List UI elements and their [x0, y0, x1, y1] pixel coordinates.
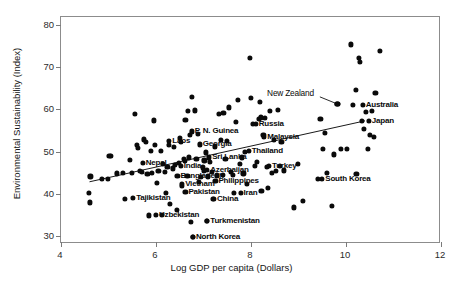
- data-point: [373, 90, 378, 95]
- data-point: [248, 95, 253, 100]
- data-point-labeled: [178, 164, 183, 169]
- data-point: [221, 111, 226, 116]
- y-tick-label: 30: [36, 229, 54, 240]
- data-point-labeled: [197, 142, 202, 147]
- data-point: [133, 112, 138, 117]
- data-point: [183, 117, 188, 122]
- data-point: [135, 146, 140, 151]
- data-point: [149, 149, 154, 154]
- x-tick-mark: [346, 242, 347, 247]
- point-annotation-label: Thailand: [252, 145, 283, 154]
- point-annotation-label: South Korea: [325, 173, 370, 182]
- point-annotation-label: Russia: [259, 119, 284, 128]
- point-annotation-label: Japan: [372, 115, 394, 124]
- point-annotation-label: Iran: [244, 188, 258, 197]
- data-point: [358, 59, 363, 64]
- y-tick-label: 60: [36, 103, 54, 114]
- data-point: [192, 108, 197, 113]
- point-annotation-label: Sri Lanka: [212, 152, 246, 161]
- data-point: [275, 107, 280, 112]
- data-point: [254, 159, 259, 164]
- data-point-labeled: [266, 163, 271, 168]
- data-point-labeled: [175, 173, 180, 178]
- data-point-labeled: [183, 189, 188, 194]
- trend-line: [61, 17, 441, 244]
- data-point-labeled: [153, 212, 158, 217]
- data-point-labeled: [366, 118, 371, 123]
- data-point: [186, 108, 191, 113]
- data-point-labeled: [131, 196, 136, 201]
- data-point: [331, 152, 336, 157]
- data-point: [105, 177, 110, 182]
- data-point-labeled: [335, 101, 340, 106]
- x-axis-title: Log GDP per capita (Dollars): [0, 262, 463, 273]
- y-tick-mark: [56, 152, 61, 153]
- data-point: [227, 105, 232, 110]
- data-point: [321, 146, 326, 151]
- data-point: [151, 118, 156, 123]
- data-point: [371, 135, 376, 140]
- data-point: [146, 213, 151, 218]
- data-point-labeled: [246, 148, 251, 153]
- data-point: [257, 99, 262, 104]
- data-point: [190, 94, 195, 99]
- x-tick-label: 8: [247, 249, 252, 260]
- point-annotation-label: Turkey: [272, 160, 296, 169]
- x-tick-label: 4: [57, 249, 62, 260]
- data-point: [350, 103, 355, 108]
- y-tick-label: 50: [36, 145, 54, 156]
- data-point: [189, 220, 194, 225]
- data-point-labeled: [320, 176, 325, 181]
- y-tick-mark: [56, 109, 61, 110]
- point-annotation-label: Nepal: [146, 157, 167, 166]
- point-annotation-label: Pakistan: [188, 186, 219, 195]
- data-point: [363, 109, 368, 114]
- data-point: [235, 97, 240, 102]
- point-annotation-label: Uzbekistan: [159, 209, 199, 218]
- data-point: [301, 199, 306, 204]
- data-point: [266, 185, 271, 190]
- data-point-labeled: [253, 122, 258, 127]
- data-point: [291, 205, 296, 210]
- data-point: [168, 201, 173, 206]
- point-annotation-label: New Zealand: [267, 88, 314, 98]
- data-point-labeled: [205, 219, 210, 224]
- data-point: [88, 174, 93, 179]
- data-point: [158, 149, 163, 154]
- data-point: [171, 144, 176, 149]
- y-tick-label: 70: [36, 61, 54, 72]
- data-point: [150, 170, 155, 175]
- data-point: [318, 116, 323, 121]
- data-point: [329, 204, 334, 209]
- point-annotation-label: Georgia: [203, 139, 232, 148]
- point-annotation-label: P. N. Guinea: [195, 126, 239, 135]
- point-annotation-label: Malaysia: [267, 132, 299, 141]
- data-point-labeled: [189, 129, 194, 134]
- y-axis-title: Environmental Sustainability (Index): [11, 24, 22, 224]
- point-annotation-label: Laos: [172, 135, 190, 144]
- data-point: [344, 146, 349, 151]
- y-tick-label: 80: [36, 19, 54, 30]
- point-annotation-label: China: [217, 193, 238, 202]
- y-tick-label: 40: [36, 187, 54, 198]
- x-tick-mark: [61, 242, 62, 247]
- data-point: [323, 130, 328, 135]
- data-point-labeled: [211, 196, 216, 201]
- data-point-labeled: [262, 135, 267, 140]
- data-point: [87, 200, 92, 205]
- x-tick-label: 10: [340, 249, 351, 260]
- x-tick-mark: [441, 242, 442, 247]
- data-point-labeled: [360, 103, 365, 108]
- data-point: [247, 56, 252, 61]
- data-point: [233, 119, 238, 124]
- data-point: [267, 109, 272, 114]
- point-annotation-label: India: [184, 161, 202, 170]
- data-point: [114, 171, 119, 176]
- data-point-labeled: [190, 235, 195, 240]
- plot-area: [60, 16, 440, 243]
- data-point: [130, 170, 135, 175]
- data-point: [143, 139, 148, 144]
- data-point: [365, 146, 370, 151]
- data-point: [123, 196, 128, 201]
- data-point: [339, 146, 344, 151]
